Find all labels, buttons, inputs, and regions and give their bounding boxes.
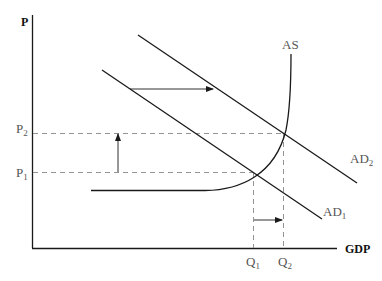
- ad1-curve: [102, 70, 322, 219]
- ad2-label-main: AD: [350, 151, 369, 166]
- ad-as-diagram: P GDP AS AD2 AD1 P2 P1 Q1 Q2: [0, 0, 382, 281]
- ad2-label: AD2: [350, 151, 373, 168]
- p1-label-sub: 1: [23, 172, 28, 182]
- y-axis-label: P: [21, 15, 28, 29]
- as-label: AS: [282, 37, 299, 52]
- q2-label: Q2: [278, 254, 292, 271]
- ad2-curve: [138, 35, 357, 183]
- q1-label: Q1: [246, 254, 260, 271]
- p2-label: P2: [16, 121, 28, 138]
- p2-label-sub: 2: [23, 128, 28, 138]
- p1-label: P1: [16, 165, 28, 182]
- q2-label-sub: 2: [287, 261, 292, 271]
- x-axis-label: GDP: [345, 242, 370, 256]
- p2-label-main: P: [16, 121, 23, 136]
- ad1-label-main: AD: [323, 204, 342, 219]
- as-curve: [91, 54, 291, 191]
- ad1-label: AD1: [323, 204, 346, 221]
- ad1-label-sub: 1: [342, 211, 347, 221]
- q1-label-sub: 1: [255, 261, 260, 271]
- ad2-label-sub: 2: [369, 158, 374, 168]
- p1-label-main: P: [16, 165, 23, 180]
